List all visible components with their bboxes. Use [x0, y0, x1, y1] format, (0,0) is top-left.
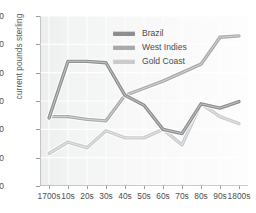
y-axis-tick-label: 50: [0, 39, 4, 49]
x-axis-tick-label: 80s: [194, 191, 208, 201]
legend: BrazilWest IndiesGold Coast: [113, 26, 187, 68]
x-axis-tick-mark: [201, 186, 202, 189]
x-axis-tick-mark: [49, 186, 50, 189]
y-axis-tick-label: 40: [0, 68, 4, 78]
y-axis-tick-label: 10: [0, 153, 4, 163]
x-axis-tick-label: 60s: [156, 191, 170, 201]
x-axis-tick-mark: [125, 186, 126, 189]
y-axis-tick-mark: [36, 186, 40, 187]
x-axis-tick-mark: [182, 186, 183, 189]
x-axis-tick-mark: [220, 186, 221, 189]
legend-item[interactable]: Brazil: [113, 26, 187, 40]
legend-label: Gold Coast: [142, 56, 185, 66]
x-axis-tick-mark: [163, 186, 164, 189]
x-axis-tick-mark: [68, 186, 69, 189]
y-axis-tick-label: 60: [0, 11, 4, 21]
x-axis-tick-label: 30s: [99, 191, 113, 201]
x-axis-tick-label: 50s: [137, 191, 151, 201]
x-axis-tick-label: 1700s: [38, 191, 61, 201]
y-axis-tick-label: 30: [0, 96, 4, 106]
legend-label: West Indies: [142, 42, 187, 52]
x-axis-tick-label: 1800s: [228, 191, 251, 201]
x-axis-tick-mark: [87, 186, 88, 189]
legend-item[interactable]: West Indies: [113, 40, 187, 54]
legend-label: Brazil: [142, 28, 164, 38]
x-axis-tick-label: 90s: [213, 191, 227, 201]
legend-item[interactable]: Gold Coast: [113, 54, 187, 68]
x-axis-tick-label: 10s: [61, 191, 75, 201]
legend-swatch-icon: [113, 45, 135, 50]
x-axis-tick-mark: [106, 186, 107, 189]
x-axis-tick-label: 70s: [175, 191, 189, 201]
y-axis-tick-label: 0: [0, 181, 4, 191]
line-chart: current pounds sterling 0102030405060 17…: [0, 0, 256, 213]
y-axis-tick-label: 20: [0, 124, 4, 134]
x-axis-tick-mark: [239, 186, 240, 189]
legend-swatch-icon: [113, 31, 135, 36]
legend-swatch-icon: [113, 59, 135, 64]
x-axis-tick-label: 20s: [80, 191, 94, 201]
x-axis-tick-label: 40s: [118, 191, 132, 201]
x-axis-tick-mark: [144, 186, 145, 189]
